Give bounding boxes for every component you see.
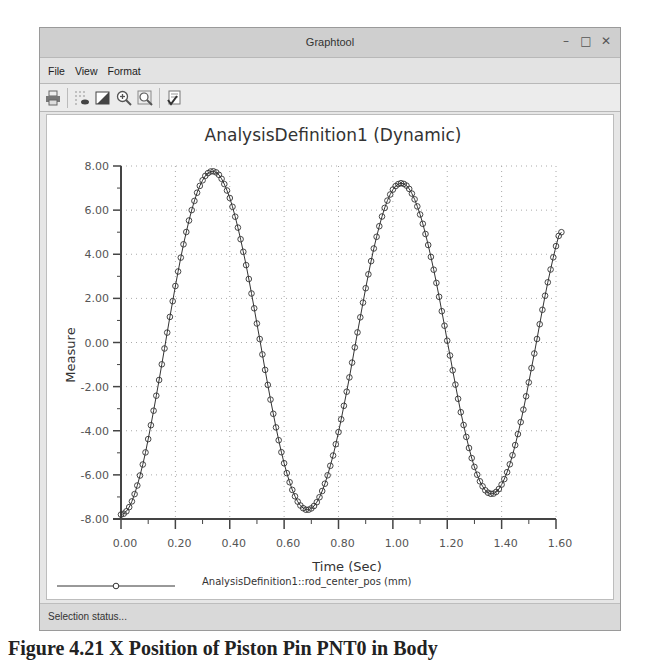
zoom-in-button[interactable] xyxy=(115,89,133,107)
menu-view[interactable]: View xyxy=(75,65,98,77)
grid-toggle-button[interactable] xyxy=(73,89,91,107)
x-tick-label: 0.40 xyxy=(222,537,247,550)
y-tick-label: 8.00 xyxy=(85,160,110,173)
x-tick-label: 0.60 xyxy=(276,537,301,550)
menu-file[interactable]: File xyxy=(48,65,65,77)
x-axis-ticks: 0.000.200.400.600.801.001.201.401.60 xyxy=(113,519,573,550)
background-color-icon xyxy=(95,90,111,106)
x-tick-label: 1.40 xyxy=(493,537,518,550)
chart-title: AnalysisDefinition1 (Dynamic) xyxy=(205,125,462,145)
x-axis-label: Time (Sec) xyxy=(311,559,382,574)
x-tick-label: 0.80 xyxy=(330,537,355,550)
refit-button[interactable] xyxy=(136,89,154,107)
legend[interactable]: AnalysisDefinition1::rod_center_pos (mm) xyxy=(57,576,411,589)
y-tick-label: -8.00 xyxy=(81,513,109,526)
title-bar[interactable]: Graphtool – □ ✕ xyxy=(40,28,620,58)
y-tick-label: -2.00 xyxy=(81,381,109,394)
print-icon xyxy=(45,90,61,106)
x-tick-label: 1.20 xyxy=(439,537,464,550)
maximize-button[interactable]: □ xyxy=(580,34,592,48)
menu-bar: File View Format xyxy=(40,58,620,84)
close-button[interactable]: ✕ xyxy=(600,34,612,48)
axes xyxy=(113,166,556,519)
graphtool-window: Graphtool – □ ✕ File View Format xyxy=(39,27,621,631)
window-title: Graphtool xyxy=(40,36,620,48)
y-tick-label: 2.00 xyxy=(85,292,110,305)
toolbar xyxy=(40,84,620,112)
status-bar: Selection status... xyxy=(40,603,620,630)
figure-caption: Figure 4.21 X Position of Piston Pin PNT… xyxy=(0,637,647,660)
menu-format[interactable]: Format xyxy=(108,65,141,77)
x-tick-label: 1.60 xyxy=(548,537,573,550)
background-button[interactable] xyxy=(94,89,112,107)
zoom-in-icon xyxy=(116,90,132,106)
refit-icon xyxy=(137,90,153,106)
y-axis-label: Measure xyxy=(63,327,78,382)
y-tick-label: 0.00 xyxy=(85,337,110,350)
legend-label: AnalysisDefinition1::rod_center_pos (mm) xyxy=(202,576,411,588)
y-tick-label: -6.00 xyxy=(81,469,109,482)
y-tick-label: -4.00 xyxy=(81,425,109,438)
y-tick-label: 4.00 xyxy=(85,248,110,261)
format-graph-icon xyxy=(166,90,182,106)
chart[interactable]: AnalysisDefinition1 (Dynamic) 8.006.004.… xyxy=(47,115,613,599)
y-axis-ticks: 8.006.004.002.000.00-2.00-4.00-6.00-8.00 xyxy=(81,160,121,526)
toolbar-separator xyxy=(159,88,160,108)
x-tick-label: 1.00 xyxy=(385,537,410,550)
x-tick-label: 0.00 xyxy=(113,537,138,550)
toggle-grid-icon xyxy=(74,90,90,106)
print-button[interactable] xyxy=(44,89,62,107)
minimize-button[interactable]: – xyxy=(560,34,572,48)
plot-area[interactable]: AnalysisDefinition1 (Dynamic) 8.006.004.… xyxy=(46,114,614,600)
toolbar-separator xyxy=(67,88,68,108)
format-button[interactable] xyxy=(165,89,183,107)
y-tick-label: 6.00 xyxy=(85,204,110,217)
x-tick-label: 0.20 xyxy=(167,537,192,550)
